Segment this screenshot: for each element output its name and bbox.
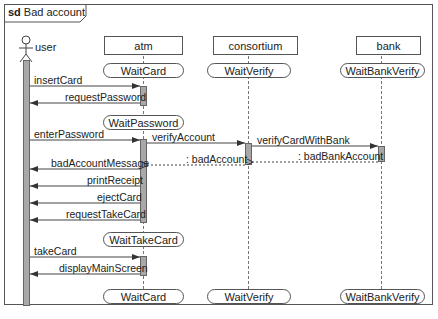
message-requesttakecard: requestTakeCard	[66, 208, 146, 220]
message-enterpassword: enterPassword	[34, 128, 104, 140]
message-badbankaccount: : badBankAccount	[298, 150, 383, 162]
message-verifyaccount: verifyAccount	[152, 131, 215, 143]
message-insertcard: insertCard	[34, 74, 82, 86]
message-ejectcard: ejectCard	[97, 191, 142, 203]
message-badaccount: : badAccount	[186, 153, 247, 165]
message-verifycardwithbank: verifyCardWithBank	[257, 134, 350, 146]
message-takecard: takeCard	[34, 245, 77, 257]
message-requestpassword: requestPassword	[65, 91, 146, 103]
message-displaymainscreen: displayMainScreen	[59, 262, 148, 274]
message-printreceipt: printReceipt	[87, 174, 143, 186]
message-badaccountmessage: badAccountMessage	[51, 157, 149, 169]
